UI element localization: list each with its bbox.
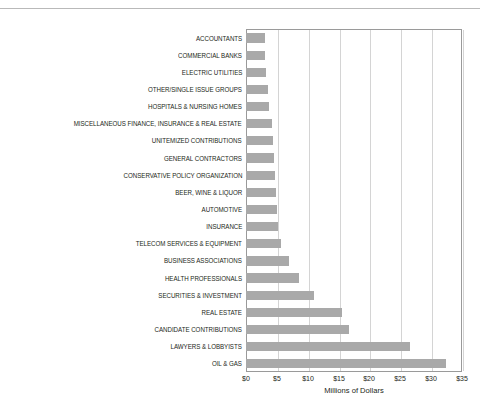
bar-row (246, 201, 462, 219)
bar (246, 273, 299, 282)
bar-row (246, 46, 462, 64)
bar-row (246, 132, 462, 150)
bar (246, 136, 273, 145)
bar-row (246, 149, 462, 167)
bar (246, 291, 314, 300)
category-label: INSURANCE (206, 218, 242, 236)
x-tick-label: $25 (394, 374, 406, 383)
category-label: AUTOMOTIVE (202, 201, 242, 219)
x-tick-label: $10 (302, 374, 314, 383)
bar (246, 171, 275, 180)
bar-series (246, 29, 462, 372)
category-label: COMMERCIAL BANKS (178, 46, 242, 64)
category-label: BEER, WINE & LIQUOR (175, 183, 242, 201)
bar-row (246, 303, 462, 321)
bar-row (246, 218, 462, 236)
bar (246, 51, 265, 60)
bar (246, 188, 276, 197)
chart-page: ACCOUNTANTSCOMMERCIAL BANKSELECTRIC UTIL… (0, 0, 480, 418)
bar (246, 256, 289, 265)
bar-row (246, 166, 462, 184)
bar (246, 119, 272, 128)
category-axis-labels: ACCOUNTANTSCOMMERCIAL BANKSELECTRIC UTIL… (0, 29, 242, 372)
x-axis-title: Millions of Dollars (246, 386, 462, 395)
category-label: UNITEMIZED CONTRIBUTIONS (152, 132, 242, 150)
bar (246, 308, 342, 317)
bar (246, 359, 446, 368)
x-tick-label: $5 (273, 374, 281, 383)
bar (246, 33, 265, 42)
bar-row (246, 286, 462, 304)
category-label: REAL ESTATE (202, 303, 242, 321)
bar (246, 222, 278, 231)
category-label: GENERAL CONTRACTORS (164, 149, 242, 167)
x-tick-label: $0 (242, 374, 250, 383)
bar (246, 85, 268, 94)
bar-row (246, 115, 462, 133)
bar-row (246, 29, 462, 47)
bar (246, 153, 274, 162)
bar-row (246, 80, 462, 98)
category-label: LAWYERS & LOBBYISTS (171, 338, 242, 356)
bar (246, 68, 266, 77)
category-label: HEALTH PROFESSIONALS (165, 269, 242, 287)
bar-row (246, 355, 462, 373)
bar-row (246, 252, 462, 270)
bar-row (246, 183, 462, 201)
category-label: BUSINESS ASSOCIATIONS (164, 252, 242, 270)
bar (246, 102, 269, 111)
x-tick-label: $20 (364, 374, 376, 383)
bar-row (246, 269, 462, 287)
category-label: ELECTRIC UTILITIES (182, 63, 242, 81)
x-tick-label: $30 (425, 374, 437, 383)
bar-row (246, 98, 462, 116)
bar-row (246, 235, 462, 253)
category-label: MISCELLANEOUS FINANCE, INSURANCE & REAL … (74, 115, 242, 133)
bar-row (246, 63, 462, 81)
x-tick-label: $15 (333, 374, 345, 383)
category-label: OIL & GAS (212, 355, 242, 373)
category-label: OTHER/SINGLE ISSUE GROUPS (148, 80, 242, 98)
category-label: ACCOUNTANTS (196, 29, 242, 47)
x-tick-label: $35 (456, 374, 468, 383)
bar (246, 205, 277, 214)
bar (246, 325, 349, 334)
gridline (463, 30, 464, 371)
category-label: HOSPITALS & NURSING HOMES (148, 98, 242, 116)
bar (246, 342, 410, 351)
bar (246, 239, 281, 248)
bar-row (246, 338, 462, 356)
category-label: SECURITIES & INVESTMENT (158, 286, 242, 304)
bar-row (246, 321, 462, 339)
x-axis-tick-labels: $0$5$10$15$20$25$30$35 (246, 374, 462, 386)
category-label: CANDIDATE CONTRIBUTIONS (155, 321, 242, 339)
category-label: CONSERVATIVE POLICY ORGANIZATION (123, 166, 242, 184)
top-divider (0, 8, 480, 9)
category-label: TELECOM SERVICES & EQUIPMENT (136, 235, 242, 253)
